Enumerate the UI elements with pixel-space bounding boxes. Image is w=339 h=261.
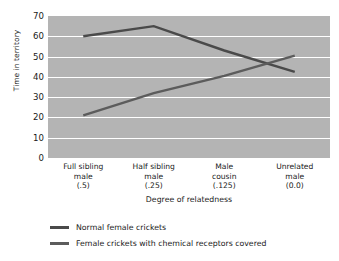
x-axis-tick-line: Unrelated <box>254 162 336 172</box>
y-axis-tick-60: 60 <box>20 31 44 41</box>
legend-label: Female crickets with chemical receptors … <box>76 239 266 248</box>
y-axis-tick-30: 30 <box>20 92 44 102</box>
plot-area <box>48 16 330 158</box>
x-axis-tick-line: (0.0) <box>254 181 336 191</box>
y-axis-tick-20: 20 <box>20 112 44 122</box>
legend-item-0: Normal female crickets <box>50 219 335 235</box>
x-axis-tick-3: Unrelatedmale(0.0) <box>254 162 336 191</box>
x-axis-tick-line: male <box>254 172 336 182</box>
chart-legend: Normal female cricketsFemale crickets wi… <box>50 219 335 251</box>
y-axis-tick-10: 10 <box>20 133 44 143</box>
data-lines <box>48 16 330 158</box>
legend-label: Normal female crickets <box>76 223 166 232</box>
y-axis-tick-40: 40 <box>20 72 44 82</box>
legend-swatch-icon <box>50 226 69 229</box>
legend-item-1: Female crickets with chemical receptors … <box>50 235 335 251</box>
chart-figure: Time in territory 706050403020100 Full s… <box>0 0 339 261</box>
y-axis-tick-0: 0 <box>20 153 44 163</box>
y-axis-tick-50: 50 <box>20 52 44 62</box>
series-line-1 <box>83 56 295 116</box>
legend-swatch-icon <box>50 242 69 245</box>
y-axis-tick-70: 70 <box>20 11 44 21</box>
x-axis-title: Degree of relatedness <box>48 195 330 204</box>
